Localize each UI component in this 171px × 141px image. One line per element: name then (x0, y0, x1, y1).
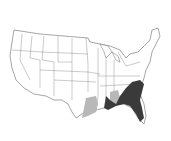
us-map-svg (0, 0, 171, 141)
